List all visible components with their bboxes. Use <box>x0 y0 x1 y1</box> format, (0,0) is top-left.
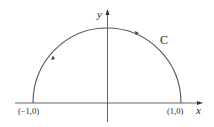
y-axis-arrow-icon <box>106 9 110 15</box>
curve-direction-arrow-icon <box>51 56 55 61</box>
diagram-canvas: y x C (−1,0) (1,0) <box>0 0 214 127</box>
y-axis-label: y <box>96 8 102 20</box>
curve-label: C <box>160 33 168 47</box>
y-axis <box>106 9 110 122</box>
curve-c <box>33 28 181 103</box>
point-label-left: (−1,0) <box>18 106 39 116</box>
point-label-right: (1,0) <box>167 106 183 116</box>
x-axis <box>15 101 203 105</box>
x-axis-label: x <box>195 104 201 116</box>
